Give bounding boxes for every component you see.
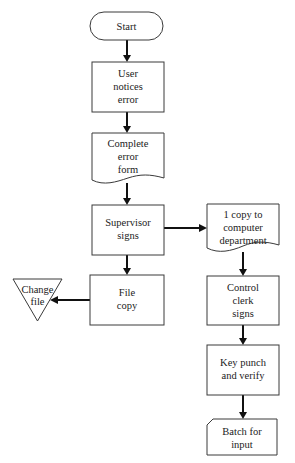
node-label: clerk	[233, 295, 255, 306]
node-label: User	[118, 68, 138, 79]
edge-key-punch-to-batch	[239, 395, 247, 419]
node-label: signs	[232, 308, 254, 319]
node-label: input	[231, 439, 253, 450]
node-key-punch-and-verify: Key punch and verify	[207, 345, 279, 395]
node-label: File	[119, 287, 136, 298]
edge-user-notices-to-complete-form	[123, 112, 131, 133]
flowchart: Start User notices error Complete error …	[0, 0, 295, 463]
node-user-notices-error: User notices error	[92, 62, 164, 112]
edge-start-to-user-notices	[123, 40, 131, 62]
node-label: error	[118, 94, 139, 105]
node-label: copy	[117, 300, 138, 311]
node-start: Start	[90, 12, 163, 40]
node-label: Batch for	[222, 426, 262, 437]
node-control-clerk-signs: Control clerk signs	[207, 276, 279, 325]
node-label: computer	[223, 222, 263, 233]
edge-file-copy-to-change-file	[50, 296, 90, 304]
node-label: department	[219, 235, 266, 246]
edge-copy-computer-to-control-clerk	[239, 252, 247, 276]
node-label: Change	[21, 284, 53, 295]
node-label: 1 copy to	[223, 209, 262, 220]
node-label: signs	[117, 230, 139, 241]
node-label: Supervisor	[105, 217, 151, 228]
node-label: Complete	[108, 138, 149, 149]
node-label: and verify	[222, 370, 266, 381]
node-label: notices	[113, 81, 143, 92]
edge-complete-form-to-supervisor	[123, 183, 131, 205]
edge-supervisor-to-copy-computer	[164, 224, 207, 232]
node-complete-error-form: Complete error form	[92, 133, 164, 183]
node-supervisor-signs: Supervisor signs	[92, 205, 164, 255]
node-label: file	[31, 296, 45, 307]
node-label: Control	[227, 282, 259, 293]
node-label: Key punch	[220, 357, 267, 368]
node-copy-to-computer-department: 1 copy to computer department	[207, 204, 279, 251]
node-label: Start	[117, 21, 137, 32]
node-label: error	[118, 151, 139, 162]
node-file-copy: File copy	[90, 275, 164, 325]
edge-control-clerk-to-key-punch	[239, 325, 247, 345]
node-label: form	[118, 164, 138, 175]
edge-supervisor-to-file-copy	[123, 255, 131, 275]
node-batch-for-input: Batch for input	[207, 419, 277, 455]
